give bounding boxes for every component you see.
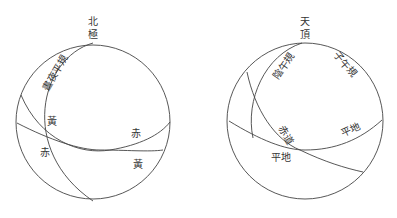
right-title-bottom: 頂: [300, 29, 310, 40]
left-label-equator-right: 赤: [131, 128, 141, 139]
left-outer-circle: [16, 45, 170, 199]
right-arc-label-right: 子午規: [331, 49, 359, 80]
left-equator-line: [21, 95, 170, 151]
right-equator-line: [247, 72, 363, 172]
left-title-top: 北: [88, 16, 98, 27]
left-label-ecliptic-left: 黃: [47, 115, 57, 127]
right-label-horizon-right: 平地: [339, 119, 362, 138]
right-outer-circle: [227, 43, 383, 199]
right-celestial-sphere: 天 頂 陰午規 子午規 赤道 平地 平地: [227, 16, 383, 199]
left-title-bottom: 極: [88, 28, 98, 40]
right-label-horizon-left: 平地: [271, 151, 291, 163]
left-arc-label: 晝夜平規: [39, 52, 69, 93]
left-ecliptic-line: [17, 123, 163, 151]
right-arc-label-left: 陰午規: [270, 50, 297, 81]
right-title-top: 天: [300, 16, 310, 27]
right-label-equator: 赤道: [276, 123, 296, 146]
left-label-equator-left: 赤: [40, 147, 50, 158]
astronomy-diagrams: 北 極 晝夜平規 黃 赤 赤 黃 天 頂 陰午規 子午規 赤道 平地 平地: [0, 0, 397, 218]
left-label-ecliptic-right: 黃: [133, 158, 143, 170]
left-celestial-sphere: 北 極 晝夜平規 黃 赤 赤 黃: [16, 16, 170, 201]
